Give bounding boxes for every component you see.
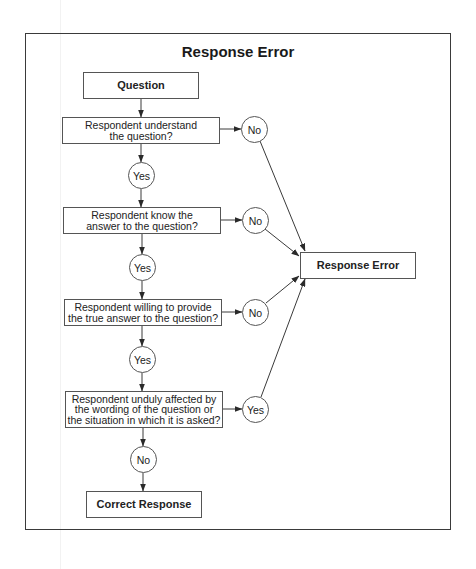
response-error-box: Response Error (300, 252, 416, 279)
arrow-no3-to-error (266, 276, 299, 303)
d1-yes-circle: Yes (128, 162, 155, 189)
arrow-no2-to-error (265, 229, 299, 256)
d2-yes-circle: Yes (129, 254, 156, 281)
d4-yes-circle: Yes (242, 396, 269, 423)
d3-yes-circle: Yes (129, 346, 156, 373)
arrow-yes4-to-error (261, 279, 305, 397)
d1-no-circle: No (241, 116, 268, 143)
decision-affected-box: Respondent unduly affected by the wordin… (65, 391, 223, 428)
d4-no-circle: No (130, 446, 157, 473)
decision-know-box: Respondent know the answer to the questi… (63, 207, 221, 234)
arrow-no1-to-error (260, 141, 305, 251)
question-box: Question (83, 72, 199, 99)
connector-layer (0, 0, 476, 569)
d2-no-circle: No (242, 207, 269, 234)
decision-willing-box: Respondent willing to provide the true a… (64, 299, 222, 326)
d3-no-circle: No (242, 299, 269, 326)
decision-understand-box: Respondent understand the question? (62, 117, 220, 144)
correct-response-box: Correct Response (86, 491, 202, 518)
